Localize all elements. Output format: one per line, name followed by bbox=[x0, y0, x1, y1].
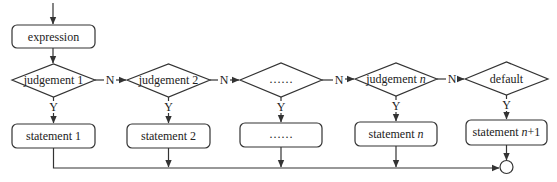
svg-text:Y: Y bbox=[502, 98, 511, 112]
statement-ellipsis-label: …… bbox=[269, 127, 293, 141]
judgement-n-label: judgement n bbox=[365, 72, 426, 86]
statement-1-label: statement 1 bbox=[26, 129, 81, 143]
expression-label: expression bbox=[28, 30, 79, 44]
statement-2-label: statement 2 bbox=[141, 129, 196, 143]
svg-text:N: N bbox=[335, 73, 344, 87]
judgement-n-node: judgement n bbox=[355, 63, 437, 96]
svg-text:Y: Y bbox=[49, 100, 58, 114]
svg-text:N: N bbox=[448, 72, 457, 86]
yes-edges: Y Y Y Y Y bbox=[49, 95, 511, 123]
judgement-ellipsis-label: …… bbox=[269, 72, 293, 86]
default-label: default bbox=[490, 72, 524, 86]
merge-lines bbox=[54, 145, 507, 168]
svg-text:N: N bbox=[106, 73, 115, 87]
judgement-ellipsis-node: …… bbox=[240, 63, 322, 97]
default-node: default bbox=[465, 62, 548, 95]
judgement-1-label: judgement 1 bbox=[23, 73, 84, 87]
svg-text:Y: Y bbox=[164, 100, 173, 114]
statement-n-label: statement n bbox=[369, 127, 424, 141]
svg-text:Y: Y bbox=[277, 100, 286, 114]
expression-node: expression bbox=[12, 25, 95, 48]
judgement-2-label: judgement 2 bbox=[138, 73, 199, 87]
svg-text:N: N bbox=[220, 73, 229, 87]
judgement-2-node: judgement 2 bbox=[127, 64, 210, 97]
merge-circle bbox=[500, 161, 513, 174]
statement-n-plus-1-node: statement n+1 bbox=[466, 120, 547, 145]
judgement-1-node: judgement 1 bbox=[12, 64, 95, 97]
statement-n-plus-1-label: statement n+1 bbox=[473, 125, 541, 139]
switch-flowchart: expression judgement 1 judgement 2 …… ju… bbox=[0, 0, 557, 182]
statement-2-node: statement 2 bbox=[127, 124, 210, 148]
statement-ellipsis-node: …… bbox=[240, 123, 322, 147]
svg-text:Y: Y bbox=[392, 99, 401, 113]
statement-n-node: statement n bbox=[355, 122, 437, 146]
statement-1-node: statement 1 bbox=[12, 124, 95, 148]
